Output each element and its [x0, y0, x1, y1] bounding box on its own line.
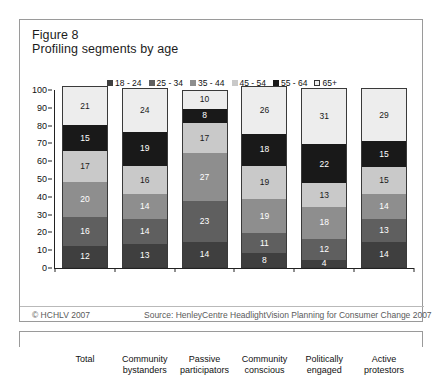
- bar-series-group: 1216201715211314141619241423271781081119…: [55, 90, 414, 268]
- bar-segment[interactable]: 8: [183, 109, 227, 123]
- bar-segment[interactable]: 16: [63, 217, 107, 245]
- bar-segment-value: 23: [200, 217, 209, 226]
- bar-segment[interactable]: 14: [362, 242, 406, 267]
- bar-segment[interactable]: 23: [183, 201, 227, 242]
- y-axis-tick-label: 40: [37, 192, 47, 202]
- x-axis-tick-mark: [174, 268, 175, 272]
- bar-segment-value: 13: [140, 251, 149, 260]
- y-axis-tick-label: 50: [37, 174, 47, 184]
- bar-segment-value: 29: [379, 111, 388, 120]
- legend-swatch-icon: [273, 80, 279, 86]
- bar-segment[interactable]: 14: [183, 242, 227, 267]
- bar-segment-value: 13: [379, 226, 388, 235]
- bar-segment[interactable]: 20: [63, 182, 107, 218]
- bar-column[interactable]: 81119191826: [234, 90, 294, 268]
- bar-segment[interactable]: 15: [63, 125, 107, 152]
- bar-segment-value: 31: [319, 112, 328, 121]
- legend-item[interactable]: 65+: [314, 78, 336, 88]
- bar-segment-value: 14: [379, 202, 388, 211]
- bar-segment-value: 15: [379, 150, 388, 159]
- bar-segment[interactable]: 13: [362, 219, 406, 242]
- bar-segment-value: 26: [260, 106, 269, 115]
- bar-segment[interactable]: 21: [63, 87, 107, 124]
- bar-segment[interactable]: 14: [362, 194, 406, 219]
- bar-column[interactable]: 41218132231: [294, 90, 354, 268]
- bar-segment-value: 21: [80, 102, 89, 111]
- bar-segment[interactable]: 11: [242, 233, 286, 253]
- category-label-line: Community: [115, 354, 175, 365]
- stacked-bar[interactable]: 121620171521: [62, 86, 108, 268]
- y-axis: 0102030405060708090100: [20, 90, 54, 268]
- source-text: Source: HenleyCentre HeadlightVision Pla…: [144, 310, 432, 320]
- bar-segment-value: 4: [322, 260, 327, 267]
- bar-segment[interactable]: 17: [63, 151, 107, 181]
- y-axis-tick-label: 80: [37, 121, 47, 131]
- figure-panel: Figure 8 Profiling segments by age 18 - …: [19, 19, 423, 322]
- x-axis-category-label: Politicallyengaged: [294, 354, 354, 375]
- figure-footer: © HCHLV 2007 Source: HenleyCentre Headli…: [20, 307, 424, 322]
- bar-column[interactable]: 131414161924: [115, 90, 175, 268]
- bar-segment[interactable]: 10: [183, 91, 227, 109]
- bar-segment[interactable]: 15: [362, 167, 406, 194]
- bar-segment[interactable]: 17: [183, 123, 227, 153]
- stacked-bar[interactable]: 131414161924: [122, 88, 168, 268]
- bar-segment-value: 15: [80, 134, 89, 143]
- bar-segment[interactable]: 13: [123, 244, 167, 267]
- y-axis-tick-mark: [48, 232, 52, 233]
- stacked-bar[interactable]: 81119191826: [241, 86, 287, 268]
- bar-segment[interactable]: 19: [242, 166, 286, 200]
- stacked-bar[interactable]: 14232717810: [182, 90, 228, 268]
- legend-swatch-icon: [149, 80, 155, 86]
- bar-segment[interactable]: 19: [242, 199, 286, 233]
- bar-segment[interactable]: 4: [302, 260, 346, 267]
- stacked-bar[interactable]: 141314151529: [361, 88, 407, 268]
- bar-column[interactable]: 14232717810: [175, 90, 235, 268]
- x-axis-category-label: Communityconscious: [234, 354, 294, 375]
- bar-segment[interactable]: 27: [183, 153, 227, 201]
- bar-segment[interactable]: 19: [123, 132, 167, 166]
- bar-segment-value: 24: [140, 106, 149, 115]
- x-axis-tick-mark: [354, 268, 355, 272]
- y-axis-tick-label: 70: [37, 138, 47, 148]
- bar-segment-value: 14: [140, 202, 149, 211]
- bar-segment[interactable]: 18: [302, 207, 346, 239]
- bar-segment[interactable]: 16: [123, 166, 167, 194]
- bar-segment[interactable]: 26: [242, 87, 286, 133]
- stacked-bar[interactable]: 41218132231: [301, 88, 347, 268]
- bar-column[interactable]: 141314151529: [354, 90, 414, 268]
- bar-segment[interactable]: 12: [302, 239, 346, 260]
- category-label-line: Politically: [294, 354, 354, 365]
- y-axis-tick-label: 60: [37, 156, 47, 166]
- bar-segment-value: 22: [319, 160, 328, 169]
- chart-plot-area: 0102030405060708090100 12162017152113141…: [20, 90, 424, 280]
- bar-segment[interactable]: 14: [123, 219, 167, 244]
- bar-segment-value: 14: [140, 227, 149, 236]
- legend-item[interactable]: 35 - 44: [190, 78, 224, 88]
- legend-item[interactable]: 18 - 24: [107, 78, 141, 88]
- bar-column[interactable]: 121620171521: [55, 90, 115, 268]
- bar-segment[interactable]: 29: [362, 89, 406, 141]
- y-axis-tick-label: 100: [32, 85, 47, 95]
- bar-segment-value: 8: [262, 256, 267, 265]
- bar-segment[interactable]: 8: [242, 253, 286, 267]
- bar-segment[interactable]: 12: [63, 246, 107, 267]
- bar-segment-value: 10: [200, 95, 209, 104]
- bar-segment-value: 14: [379, 250, 388, 259]
- y-axis-tick-mark: [48, 214, 52, 215]
- bar-segment[interactable]: 31: [302, 89, 346, 144]
- bar-segment[interactable]: 18: [242, 134, 286, 166]
- bar-segment-value: 11: [260, 239, 269, 248]
- bar-segment-value: 16: [80, 227, 89, 236]
- bar-segment[interactable]: 13: [302, 183, 346, 206]
- bar-segment[interactable]: 15: [362, 141, 406, 168]
- category-label-line: protestors: [354, 365, 414, 375]
- category-label-line: Active: [354, 354, 414, 365]
- y-axis-tick-mark: [48, 268, 52, 269]
- bar-segment[interactable]: 14: [123, 194, 167, 219]
- y-axis-tick-mark: [48, 161, 52, 162]
- bar-segment-value: 12: [319, 245, 328, 254]
- legend-item[interactable]: 25 - 34: [149, 78, 183, 88]
- figure-subtitle: Profiling segments by age: [32, 42, 178, 56]
- bar-segment[interactable]: 22: [302, 144, 346, 183]
- bar-segment[interactable]: 24: [123, 89, 167, 132]
